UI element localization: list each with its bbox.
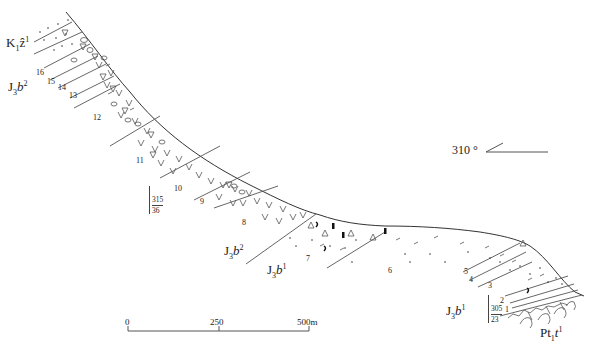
layer-number: 16 (36, 69, 44, 77)
strike-value: 305 (491, 305, 502, 315)
layer-number: 7 (306, 255, 310, 263)
layer-number: 13 (69, 92, 77, 100)
layer-number: 11 (136, 157, 144, 165)
scale-tick-250: 250 (210, 318, 224, 327)
terrain-profile (66, 12, 584, 296)
formation-sup: 1 (558, 325, 562, 334)
scale-tick-500m: 500m (297, 318, 318, 327)
scale-tick-0: 0 (125, 318, 130, 327)
formation-label-k1z1: K1ẑ1 (6, 36, 29, 53)
formation-prefix: Pt (540, 325, 551, 340)
layer-number: 4 (469, 276, 473, 284)
formation-label-j3b2-lower: J3b2 (224, 244, 244, 261)
layer-number: 5 (464, 268, 468, 276)
layer-number: 1 (505, 306, 509, 314)
dip-value: 23 (491, 315, 502, 324)
layer-number: 3 (488, 282, 492, 290)
layer-number: 8 (242, 219, 246, 227)
formation-label-pt11t: Pt1t1 (540, 326, 562, 343)
attitude-symbol-1: 315 36 (149, 186, 163, 214)
attitude-symbol-2: 305 23 (488, 295, 502, 323)
formation-sup: 2 (24, 79, 28, 88)
layer-number: 15 (47, 78, 55, 86)
fossil-crescent-pattern (316, 222, 529, 293)
formation-prefix: K (6, 35, 15, 50)
layer-number: 14 (58, 84, 66, 92)
formation-sup: 1 (283, 262, 287, 271)
layer-number: 9 (200, 198, 204, 206)
layer-number: 10 (174, 185, 182, 193)
strike-value: 315 (152, 196, 163, 206)
formation-label-j3b1-center: J3b1 (267, 263, 287, 280)
orientation-arrow (486, 143, 548, 152)
layer-number: 12 (93, 114, 101, 122)
triangle-pattern (62, 30, 526, 246)
bedding-lines (34, 22, 582, 316)
formation-sup: 2 (240, 243, 244, 252)
orientation-label: 310 ° (452, 144, 478, 156)
formation-label-j3b1-right: J3b1 (446, 304, 466, 321)
formation-sup: 1 (462, 303, 466, 312)
layer-number: 6 (388, 267, 392, 275)
formation-label-j3b2-upper: J3b2 (8, 80, 28, 97)
formation-sup: 1 (25, 35, 29, 44)
dip-value: 36 (152, 206, 163, 215)
dot-pattern (39, 19, 563, 285)
